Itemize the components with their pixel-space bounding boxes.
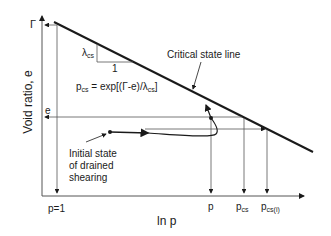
initial-state-point	[108, 130, 112, 134]
tick-pcsi: pcs(i)	[261, 202, 280, 213]
lambda-label: λcs	[82, 48, 94, 59]
y-axis-label: Void ratio, e	[21, 62, 35, 142]
tick-p: p	[208, 202, 214, 212]
current-state-point	[209, 116, 213, 120]
tick-pcs: pcs	[236, 202, 249, 213]
x-axis-label: ln p	[157, 215, 176, 227]
e-label: e	[45, 106, 51, 116]
csl-pointer	[193, 62, 201, 89]
gamma-label: Γ	[30, 19, 36, 30]
initial-state-label: Initial state of drained shearing	[69, 148, 117, 184]
drained-path-start	[110, 132, 148, 133]
csl-label: Critical state line	[167, 50, 240, 60]
critical-state-diagram: Void ratio, e Γ e λcs 1 pcs = exp[(Γ-e)/…	[0, 0, 331, 236]
diagram-canvas	[0, 0, 331, 236]
tick-p1: p=1	[48, 204, 65, 214]
run-label: 1	[112, 64, 118, 74]
initial-state-pointer	[86, 134, 106, 142]
equation: pcs = exp[(Γ-e)/λcs]	[76, 82, 157, 93]
drained-path-curve	[148, 105, 217, 136]
